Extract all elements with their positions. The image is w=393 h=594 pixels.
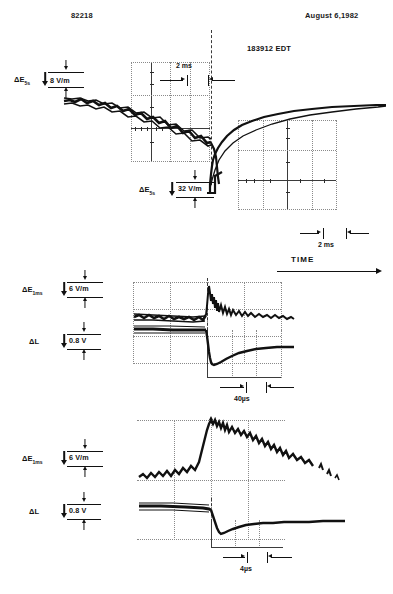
calibration-subscript-e1ms-6b: 1ms bbox=[33, 459, 43, 465]
time-scale-slow-bottom-label: 2 ms bbox=[318, 241, 334, 248]
time-stamp-label: 183912 EDT bbox=[247, 45, 291, 53]
date-label: August 6,1982 bbox=[305, 12, 358, 20]
trace-slow-left bbox=[62, 85, 222, 190]
calibration-value-e1ms-6b: 6 V/m bbox=[69, 454, 89, 461]
calibration-value-e5s-8: 8 V/m bbox=[50, 77, 70, 84]
calibration-symbol-l-08: ΔL bbox=[29, 338, 39, 346]
time-scale-slow-top-label: 2 ms bbox=[176, 62, 192, 69]
calibration-subscript-e5s-32: 5s bbox=[150, 190, 156, 196]
calibration-subscript-e5s-8: 5s bbox=[25, 80, 31, 86]
time-scale-mid-label: 40µs bbox=[234, 395, 250, 402]
trace-fast-light bbox=[137, 498, 347, 544]
time-axis-arrow-icon bbox=[277, 271, 377, 272]
calibration-subscript-e1ms-6: 1ms bbox=[33, 290, 43, 296]
record-id-label: 82218 bbox=[71, 12, 93, 20]
time-axis-label: TIME bbox=[291, 256, 315, 264]
calibration-symbol-e1ms-6: ΔE1ms bbox=[22, 286, 43, 296]
calibration-value-l-08: 0.8 V bbox=[69, 337, 86, 344]
trace-slow-hook bbox=[206, 172, 224, 194]
time-scale-fast bbox=[222, 552, 292, 566]
calibration-symbol-e1ms-6b: ΔE1ms bbox=[22, 455, 43, 465]
figure-canvas: 82218 August 6,1982 183912 EDT ΔE5s 8 V/… bbox=[0, 0, 393, 594]
trace-mid-light bbox=[133, 322, 295, 368]
calibration-symbol-e5s-8: ΔE5s bbox=[14, 76, 30, 86]
time-scale-slow-bottom bbox=[300, 228, 372, 242]
time-scale-mid bbox=[218, 382, 294, 396]
time-scale-fast-label: 4µs bbox=[240, 565, 252, 572]
calibration-value-l-08b: 0.8 V bbox=[69, 507, 86, 514]
peak-marker-icon bbox=[209, 416, 213, 420]
calibration-symbol-l-08b: ΔL bbox=[29, 508, 39, 516]
trace-slow-right bbox=[206, 96, 388, 192]
calibration-value-e1ms-6: 6 V/m bbox=[69, 285, 89, 292]
trace-fast-efield bbox=[137, 410, 347, 490]
